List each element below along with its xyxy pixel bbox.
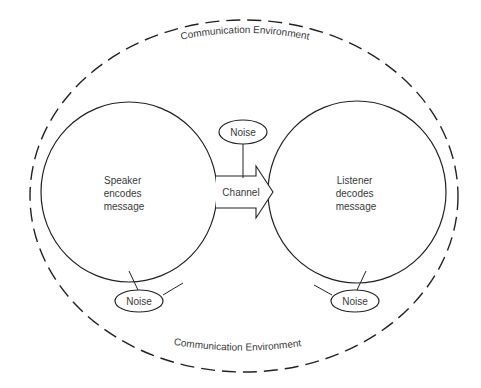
noise-right-connector	[357, 271, 366, 290]
environment-label-bottom: Communication Environment	[173, 336, 302, 353]
speaker-label: Speaker encodes message	[104, 175, 145, 212]
listener-label: Listener decodes message	[336, 175, 377, 212]
communication-model-diagram: Communication Environment Communication …	[0, 0, 481, 388]
noise-left-connector	[129, 271, 138, 290]
noise-right-tail	[314, 285, 332, 295]
noise-left-tail	[163, 283, 183, 295]
environment-label-top: Communication Environment	[179, 24, 310, 42]
noise-top-label: Noise	[230, 127, 256, 138]
channel-label: Channel	[222, 187, 259, 198]
noise-right-label: Noise	[342, 296, 368, 307]
noise-left-label: Noise	[126, 296, 152, 307]
